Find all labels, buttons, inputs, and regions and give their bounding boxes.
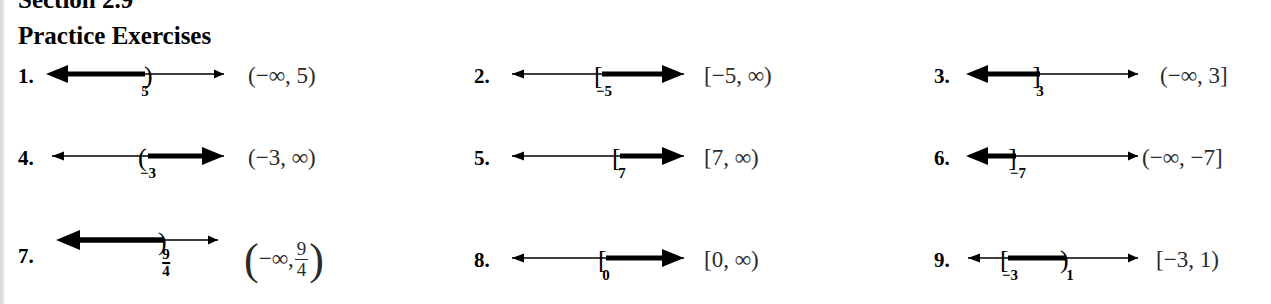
close-paren: ) [309, 244, 324, 276]
fraction-numerator: 9 [162, 247, 170, 262]
open-paren: ( [244, 244, 259, 276]
problem-1: 1. ) 5 (−∞, 5) [18, 60, 438, 140]
problem-6: 6. ] −7 (−∞, −7] [934, 140, 1271, 220]
number-line-6: ] [958, 142, 1148, 182]
number-line-5: [ [498, 142, 698, 182]
interval-notation: (−∞, 3] [1160, 64, 1228, 87]
fraction-denominator: 4 [295, 259, 309, 280]
section-heading: Section 2.9 [18, 0, 133, 14]
tick-label: −3 [140, 166, 156, 181]
number-line-7: ) [46, 222, 246, 262]
problem-number: 3. [934, 66, 950, 87]
problem-2: 2. [ −5 [−5, ∞) [474, 60, 894, 140]
interval-left-term: −∞, [259, 246, 294, 271]
interval-notation: (−∞,94) [244, 240, 324, 281]
problem-5: 5. [ 7 [7, ∞) [474, 140, 894, 220]
interval-fraction: 94 [295, 239, 309, 280]
interval-notation: [−3, 1) [1156, 248, 1219, 271]
number-line-1: ) [38, 60, 238, 100]
interval-notation: (−∞, −7] [1142, 146, 1223, 169]
scan-edge-artifact-light [3, 0, 5, 304]
problem-number: 1. [18, 66, 34, 87]
tick-label: 7 [618, 166, 626, 181]
tick-label: −7 [1010, 166, 1026, 181]
problem-number: 6. [934, 148, 950, 169]
problem-number: 8. [474, 250, 490, 271]
problem-number: 9. [934, 250, 950, 271]
number-line-3: ] [958, 60, 1148, 100]
tick-label: −3 [1002, 268, 1018, 283]
tick-label: 9 4 [162, 247, 170, 279]
tick-label: 0 [602, 268, 610, 283]
fraction-numerator: 9 [295, 239, 309, 259]
interval-notation: [7, ∞) [704, 146, 759, 169]
tick-fraction: 9 4 [162, 247, 170, 279]
problem-7: 7. ) 9 4 (−∞,94) [18, 222, 438, 302]
problem-9: 9. [ ) −3 1 [−3, 1) [934, 222, 1271, 302]
interval-notation: [0, ∞) [704, 248, 759, 271]
problem-4: 4. ( −3 (−3, ∞) [18, 140, 438, 220]
tick-label: 1 [1066, 268, 1074, 283]
problem-number: 4. [18, 148, 34, 169]
tick-label: −5 [596, 84, 612, 99]
practice-exercises-heading: Practice Exercises [18, 22, 211, 50]
problem-3: 3. ] 3 (−∞, 3] [934, 60, 1271, 140]
problem-8: 8. [ 0 [0, ∞) [474, 222, 894, 302]
number-line-8: [ [498, 244, 698, 288]
tick-label: 5 [141, 84, 149, 99]
number-line-4: ( [38, 142, 238, 182]
interval-notation: (−∞, 5) [248, 64, 316, 87]
tick-label: 3 [1036, 84, 1044, 99]
fraction-denominator: 4 [162, 262, 170, 279]
interval-notation: (−3, ∞) [248, 146, 316, 169]
problem-number: 5. [474, 148, 490, 169]
interval-notation: [−5, ∞) [704, 64, 772, 87]
problem-number: 7. [18, 246, 34, 267]
problem-number: 2. [474, 66, 490, 87]
number-line-9: [ ) [958, 244, 1148, 288]
